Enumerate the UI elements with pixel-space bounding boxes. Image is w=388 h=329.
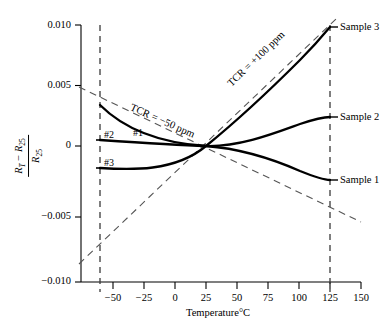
- series-label-sample-1: Sample 1: [340, 174, 379, 185]
- left-edge-stubs: [96, 140, 104, 168]
- series-short-label-1: #1: [133, 127, 143, 138]
- series-short-label-3: #3: [104, 157, 114, 168]
- right-edge-stubs: [330, 27, 338, 180]
- x-axis-ticks: [113, 282, 361, 289]
- chart-figure: 0.010 0.005 0 −0.005 −0.010 −50 −25 0 25…: [0, 0, 388, 329]
- series-label-sample-2: Sample 2: [340, 111, 379, 122]
- x-axis-title: Temperature°C: [186, 307, 250, 318]
- y-axis-title-numerator: RT − R25: [13, 135, 29, 177]
- y-tick-label-3: −0.005: [16, 210, 71, 221]
- y-axis-ticks: [75, 25, 81, 282]
- y-tick-label-1: 0.005: [16, 79, 71, 90]
- series-label-sample-3: Sample 3: [340, 21, 379, 32]
- reference-line-minus50ppm: [79, 87, 361, 222]
- x-tick-label-8: 150: [341, 292, 381, 303]
- y-axis-title-denominator: R25: [30, 135, 45, 177]
- y-axis-title-fraction: RT − R25 R25: [13, 135, 45, 177]
- y-axis-title: RT − R25 R25: [6, 108, 52, 204]
- series-short-label-2: #2: [104, 129, 114, 140]
- y-tick-label-0: 0.010: [16, 19, 71, 30]
- y-tick-label-4: −0.010: [16, 275, 71, 286]
